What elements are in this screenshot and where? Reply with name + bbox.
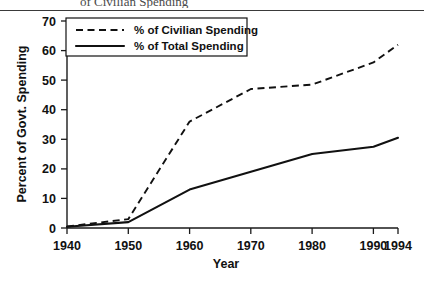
y-tick-label-10: 10 <box>42 192 56 206</box>
figure-panel: of Civilian Spending 0 10 20 30 40 50 60 <box>0 0 424 281</box>
series-line-civilian-spending <box>67 45 398 227</box>
x-tick-label-1950: 1950 <box>114 239 142 253</box>
y-axis-title: Percent of Govt. Spending <box>15 46 29 203</box>
x-tick-label-1980: 1980 <box>298 239 326 253</box>
x-tick-label-1960: 1960 <box>176 239 204 253</box>
y-tick-label-60: 60 <box>42 44 56 58</box>
x-tick-label-1970: 1970 <box>237 239 265 253</box>
series-line-total-spending <box>67 138 398 227</box>
x-axis-tick-labels: 1940 1950 1960 1970 1980 1990 1994 <box>53 239 412 253</box>
legend-label-total-spending: % of Total Spending <box>134 40 244 52</box>
y-axis-tick-labels: 0 10 20 30 40 50 60 70 <box>42 15 56 236</box>
x-axis-title: Year <box>213 257 240 271</box>
x-axis-ticks <box>67 228 398 234</box>
y-tick-label-20: 20 <box>42 162 56 176</box>
y-tick-label-50: 50 <box>42 74 56 88</box>
line-chart: 0 10 20 30 40 50 60 70 Percent of Govt. … <box>0 0 424 281</box>
chart-legend: % of Civilian Spending % of Total Spendi… <box>66 18 258 56</box>
x-tick-label-1940: 1940 <box>53 239 81 253</box>
y-tick-label-40: 40 <box>42 103 56 117</box>
legend-label-civilian-spending: % of Civilian Spending <box>134 24 258 36</box>
y-tick-label-70: 70 <box>42 15 56 29</box>
y-tick-label-30: 30 <box>42 133 56 147</box>
x-tick-label-1994: 1994 <box>384 239 412 253</box>
y-tick-label-0: 0 <box>49 222 56 236</box>
